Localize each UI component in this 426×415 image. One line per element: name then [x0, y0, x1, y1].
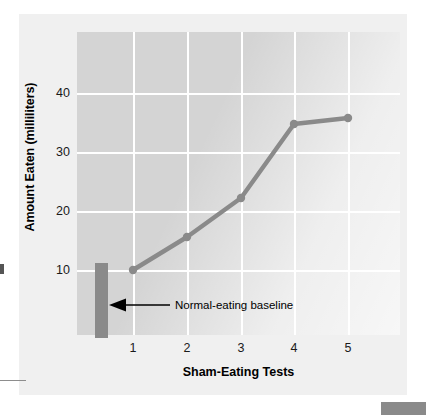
data-point-1 [129, 266, 137, 274]
page-edge-mark [0, 264, 4, 274]
data-point-5 [344, 114, 352, 122]
series-overlay [0, 0, 426, 415]
data-point-2 [183, 233, 191, 241]
annotation-arrow-head-icon [109, 299, 126, 312]
data-point-4 [290, 120, 298, 128]
data-point-3 [237, 194, 245, 202]
page-corner-block [381, 402, 426, 415]
annotation-baseline-label: Normal-eating baseline [175, 299, 293, 311]
page-edge-rule [0, 380, 26, 381]
figure-chart-sham-eating: 40 30 20 10 1 2 3 4 5 Amount Eaten (mill… [0, 0, 426, 415]
